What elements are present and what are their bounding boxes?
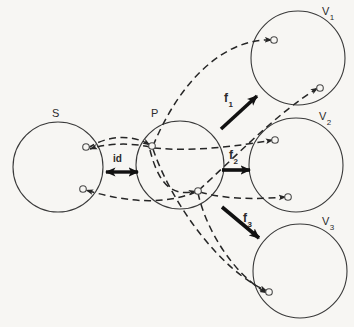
map-label-f2: f2 xyxy=(229,149,237,164)
edge-p-lower-to-v2-lower xyxy=(200,192,286,198)
map-label-f2-subscript: 2 xyxy=(234,157,238,166)
set-label-v3-text: V xyxy=(322,215,329,227)
map-label-f2-text: f xyxy=(229,148,233,162)
edge-p-upper-to-v1-upper xyxy=(153,40,272,146)
set-label-v1: V1 xyxy=(322,6,334,20)
map-label-f3: f3 xyxy=(243,212,251,227)
element-point-p-upper xyxy=(149,143,156,150)
diagram-canvas xyxy=(0,0,354,327)
set-label-v2: V2 xyxy=(319,111,331,125)
edge-p-lower-to-v1-lower xyxy=(199,88,318,190)
set-label-v2-text: V xyxy=(319,110,326,122)
element-point-v3-point xyxy=(266,289,273,296)
map-label-f3-text: f xyxy=(243,211,247,225)
set-circle-p xyxy=(136,121,224,209)
element-point-s-upper xyxy=(83,144,90,151)
set-label-v1-text: V xyxy=(322,5,329,17)
map-label-f1-subscript: 1 xyxy=(229,100,233,109)
edge-p-lower-to-s-lower xyxy=(86,190,196,201)
map-label-id: id xyxy=(113,154,122,164)
map-label-f1: f1 xyxy=(224,92,232,107)
map-arrows-group xyxy=(106,96,259,238)
edge-v-back-to-p-lower xyxy=(150,150,196,193)
element-point-s-lower xyxy=(80,186,87,193)
set-label-v3: V3 xyxy=(322,216,334,230)
set-label-s-text: S xyxy=(52,107,59,119)
element-points-group xyxy=(80,37,324,296)
map-arrow-f3 xyxy=(222,207,259,238)
set-label-v1-subscript: 1 xyxy=(330,13,334,22)
set-circle-v3 xyxy=(253,224,347,318)
map-label-f3-subscript: 3 xyxy=(248,220,252,229)
set-label-p: P xyxy=(151,108,158,119)
map-label-f1-text: f xyxy=(224,91,228,105)
element-point-v1-lower xyxy=(317,85,324,92)
diagram-figure: SPV1V2V3 idf1f2f3 xyxy=(0,0,354,327)
set-label-v2-subscript: 2 xyxy=(327,118,331,127)
element-point-p-lower xyxy=(195,188,202,195)
map-label-id-text: id xyxy=(113,153,122,164)
set-circles-group xyxy=(13,11,347,318)
set-label-s: S xyxy=(52,108,59,119)
element-point-v1-upper xyxy=(271,37,278,44)
element-point-v2-upper xyxy=(272,137,279,144)
set-label-v3-subscript: 3 xyxy=(330,223,334,232)
element-point-v2-lower xyxy=(285,194,292,201)
set-circle-s xyxy=(13,122,103,212)
set-circle-v1 xyxy=(251,11,345,105)
set-label-p-text: P xyxy=(151,107,158,119)
dashed-edges-group xyxy=(86,40,318,293)
